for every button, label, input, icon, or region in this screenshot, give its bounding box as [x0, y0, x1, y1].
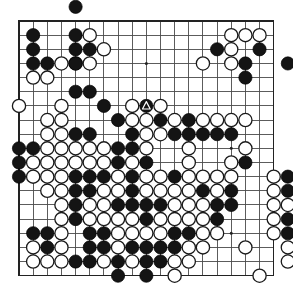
black-stone	[239, 57, 252, 70]
white-stone	[196, 198, 209, 211]
black-stone	[83, 184, 96, 197]
black-stone	[97, 170, 110, 183]
black-stone	[12, 142, 25, 155]
black-stone	[12, 156, 25, 169]
white-stone	[225, 170, 238, 183]
white-stone	[111, 227, 124, 240]
white-stone	[41, 170, 54, 183]
white-stone	[69, 142, 82, 155]
black-stone	[225, 128, 238, 141]
white-stone	[55, 170, 68, 183]
black-stone	[69, 57, 82, 70]
white-stone	[182, 213, 195, 226]
black-stone	[69, 43, 82, 56]
white-stone	[196, 227, 209, 240]
white-stone	[83, 57, 96, 70]
white-stone	[182, 142, 195, 155]
black-stone	[69, 184, 82, 197]
black-stone	[140, 255, 153, 268]
white-stone	[168, 269, 181, 282]
white-stone	[41, 128, 54, 141]
white-stone	[126, 213, 139, 226]
white-stone	[27, 241, 40, 254]
white-stone	[111, 241, 124, 254]
black-stone	[97, 241, 110, 254]
white-stone	[97, 43, 110, 56]
black-stone	[111, 113, 124, 126]
black-stone	[69, 29, 82, 42]
black-stone	[126, 184, 139, 197]
white-stone	[126, 156, 139, 169]
black-stone	[225, 198, 238, 211]
black-stone	[27, 57, 40, 70]
white-stone	[126, 227, 139, 240]
white-stone	[41, 184, 54, 197]
black-stone	[69, 0, 82, 13]
white-stone	[281, 198, 293, 211]
white-stone	[140, 227, 153, 240]
white-stone	[225, 57, 238, 70]
white-stone	[55, 57, 68, 70]
white-stone	[55, 128, 68, 141]
white-stone	[111, 213, 124, 226]
white-stone	[182, 170, 195, 183]
white-stone	[154, 213, 167, 226]
white-stone	[97, 156, 110, 169]
black-stone	[281, 170, 293, 183]
white-stone	[267, 198, 280, 211]
black-stone	[154, 113, 167, 126]
black-stone	[83, 43, 96, 56]
black-stone	[168, 227, 181, 240]
black-stone	[27, 142, 40, 155]
black-stone	[111, 198, 124, 211]
white-stone	[55, 227, 68, 240]
black-stone	[69, 128, 82, 141]
white-stone	[41, 113, 54, 126]
black-stone	[69, 170, 82, 183]
black-stone	[281, 184, 293, 197]
white-stone	[211, 113, 224, 126]
white-stone	[168, 113, 181, 126]
black-stone	[69, 85, 82, 98]
white-stone	[168, 198, 181, 211]
black-stone	[154, 241, 167, 254]
white-stone	[55, 241, 68, 254]
white-stone	[239, 241, 252, 254]
white-stone	[69, 156, 82, 169]
white-stone	[196, 241, 209, 254]
white-stone	[267, 213, 280, 226]
white-stone	[267, 227, 280, 240]
black-stone	[83, 85, 96, 98]
star-point	[145, 62, 148, 65]
white-stone	[55, 213, 68, 226]
white-stone	[27, 71, 40, 84]
white-stone	[267, 184, 280, 197]
white-stone	[83, 142, 96, 155]
white-stone	[83, 29, 96, 42]
black-stone	[126, 198, 139, 211]
white-stone	[83, 156, 96, 169]
black-stone	[182, 128, 195, 141]
white-stone	[154, 184, 167, 197]
black-stone	[126, 142, 139, 155]
white-stone	[55, 255, 68, 268]
black-stone	[140, 156, 153, 169]
white-stone	[239, 113, 252, 126]
black-stone	[41, 241, 54, 254]
white-stone	[196, 213, 209, 226]
black-stone	[281, 227, 293, 240]
black-stone	[27, 227, 40, 240]
white-stone	[55, 99, 68, 112]
white-stone	[126, 255, 139, 268]
white-stone	[55, 184, 68, 197]
white-stone	[140, 128, 153, 141]
black-stone	[168, 241, 181, 254]
go-board[interactable]	[0, 0, 293, 302]
black-stone	[168, 170, 181, 183]
black-stone	[211, 213, 224, 226]
black-stone	[126, 241, 139, 254]
black-stone	[196, 128, 209, 141]
black-stone	[83, 255, 96, 268]
black-stone	[12, 170, 25, 183]
white-stone	[168, 255, 181, 268]
